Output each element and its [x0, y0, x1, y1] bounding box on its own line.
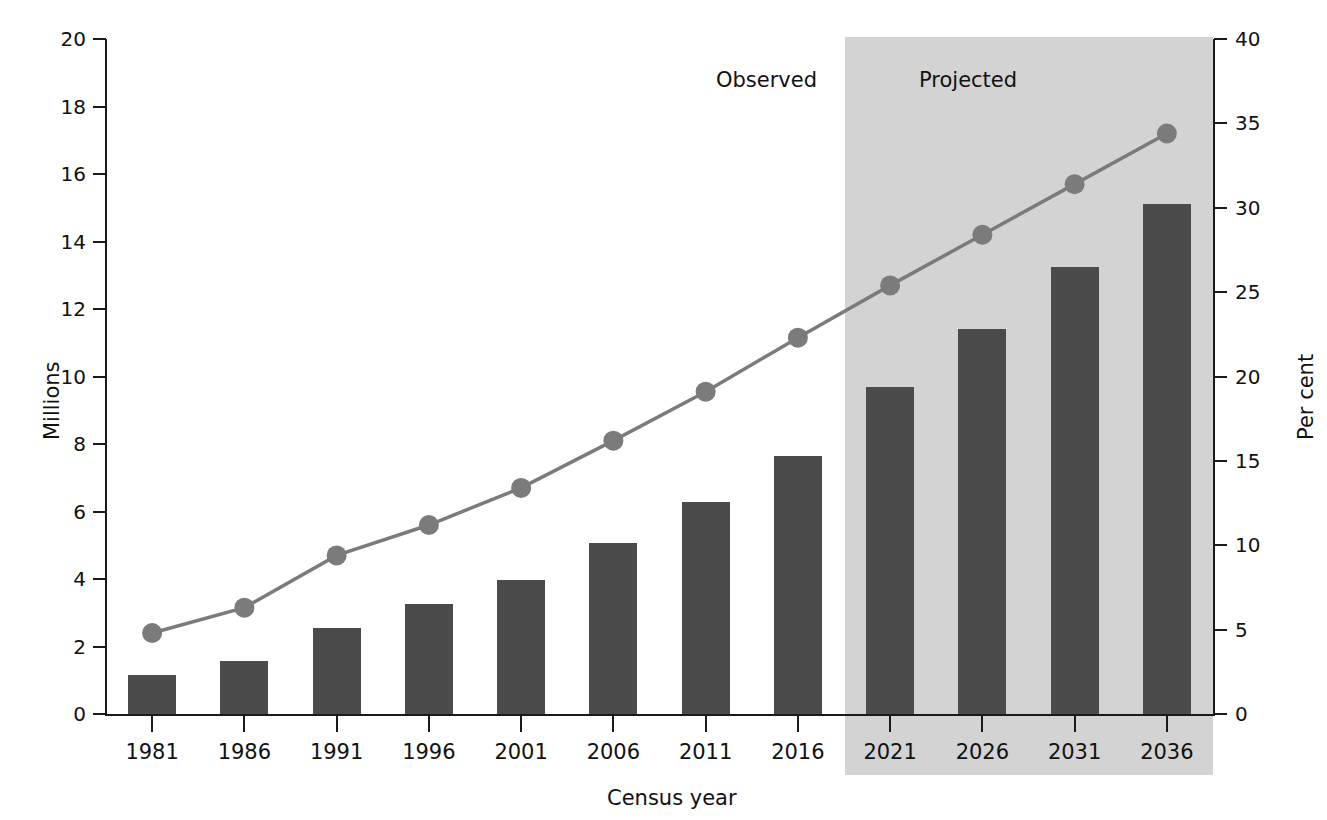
- y-axis-left-title: Millions: [40, 361, 64, 440]
- line-marker: [972, 225, 992, 245]
- line-marker: [788, 328, 808, 348]
- line-marker: [1157, 124, 1177, 144]
- x-axis-title: Census year: [607, 786, 737, 810]
- line-marker: [142, 623, 162, 643]
- line-marker: [511, 478, 531, 498]
- chart-figure: Observed Projected 02468101214161820 051…: [0, 0, 1327, 820]
- line-marker: [419, 515, 439, 535]
- line-marker: [327, 545, 347, 565]
- line-series-overlay: [0, 0, 1327, 820]
- y-axis-right-title: Per cent: [1294, 354, 1318, 440]
- line-marker: [234, 598, 254, 618]
- line-marker: [696, 382, 716, 402]
- line-marker: [1065, 174, 1085, 194]
- line-marker: [880, 275, 900, 295]
- line-marker: [603, 431, 623, 451]
- line-path: [152, 134, 1167, 634]
